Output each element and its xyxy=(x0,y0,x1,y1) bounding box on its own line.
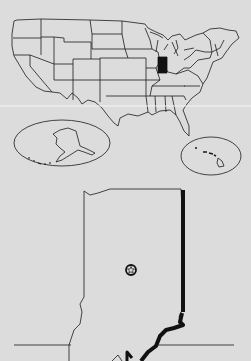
alaska-shape xyxy=(53,128,95,162)
alaska-inset xyxy=(14,120,110,166)
indiana-detail xyxy=(14,189,234,361)
hawaii-inset xyxy=(181,137,241,175)
map-graphic xyxy=(0,0,251,361)
hawaii-islands xyxy=(195,148,216,156)
hawaii-ellipse xyxy=(181,137,241,175)
ohio-river-thick-2 xyxy=(127,352,132,361)
us-map xyxy=(12,19,239,136)
alaska-ellipse xyxy=(14,120,110,166)
state-lines xyxy=(13,19,224,115)
indiana-highlight xyxy=(158,57,167,73)
hawaii-big-island xyxy=(217,158,224,167)
ohio-river-thick xyxy=(141,313,183,361)
capital-star-icon xyxy=(126,265,136,275)
us-outline xyxy=(12,19,239,136)
indiana-outline xyxy=(69,189,183,361)
locator-map xyxy=(0,0,251,361)
